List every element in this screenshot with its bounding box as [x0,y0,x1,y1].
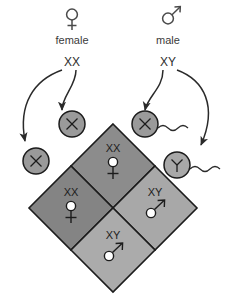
gamete-egg-right [59,111,85,137]
gamete-sperm-x [132,111,188,137]
punnett-square: XX XX XY XY [29,124,197,292]
gamete-egg-left [23,148,49,174]
male-parent-genotype: XY [160,55,176,69]
sperm-tail-icon [158,126,188,131]
male-parent-label: male [156,34,180,46]
diagram-canvas: female XX male XY [0,0,227,296]
punnett-cell-bottom-genotype: XY [106,229,121,241]
gamete-sperm-y [164,152,220,178]
arrow-male-to-sperm-y [177,70,208,145]
arrow-male-to-sperm-x [145,70,163,110]
punnett-cell-left-genotype: XX [64,186,79,198]
female-symbol-icon [67,9,78,30]
male-symbol-icon [163,7,181,24]
sex-determination-diagram: female XX male XY [0,0,227,296]
arrow-female-to-egg-right [62,70,76,110]
sperm-tail-icon [190,167,220,172]
arrow-female-to-egg-left [23,70,62,141]
female-parent-genotype: XX [64,55,80,69]
punnett-cell-right-genotype: XY [148,186,163,198]
female-parent-label: female [55,34,88,46]
punnett-cell-top-genotype: XX [106,142,121,154]
